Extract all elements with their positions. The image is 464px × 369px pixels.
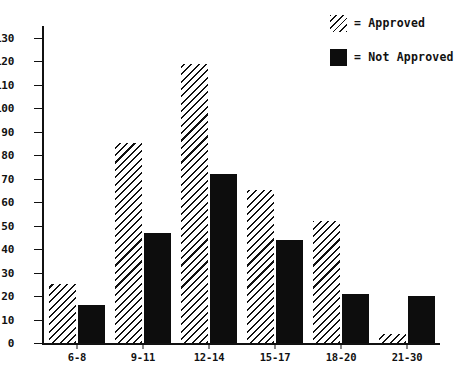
y-axis-tick-label: 0 xyxy=(0,337,14,350)
bar-not-approved xyxy=(276,240,303,343)
y-axis-tick xyxy=(34,61,42,62)
bar-group: 18-20 xyxy=(308,26,374,343)
bar-not-approved xyxy=(78,305,105,343)
bar-group: 9-11 xyxy=(110,26,176,343)
x-axis-tick xyxy=(407,343,408,349)
y-axis-tick-label: 30 xyxy=(0,266,14,279)
y-axis-tick xyxy=(34,202,42,203)
x-axis-tick-label: 15-17 xyxy=(260,351,291,363)
y-axis-tick xyxy=(34,38,42,39)
y-axis-tick xyxy=(34,320,42,321)
x-axis-tick xyxy=(77,343,78,349)
y-axis-tick-label: 100 xyxy=(0,102,14,115)
y-axis-tick xyxy=(34,179,42,180)
bar-approved xyxy=(181,64,208,343)
plot-area: 0102030405060708090100110120130 6-89-111… xyxy=(42,26,440,345)
bar-approved xyxy=(115,143,142,343)
y-axis-tick-label: 90 xyxy=(0,125,14,138)
bar-not-approved xyxy=(144,233,171,343)
x-axis-tick xyxy=(209,343,210,349)
y-axis-tick-label: 70 xyxy=(0,172,14,185)
bar-not-approved xyxy=(342,294,369,343)
bar-approved xyxy=(49,284,76,343)
bar-group: 21-30 xyxy=(374,26,440,343)
x-axis-tick-label: 21-30 xyxy=(392,351,423,363)
y-axis-tick-label: 50 xyxy=(0,219,14,232)
x-axis-tick-label: 6-8 xyxy=(68,351,86,363)
y-axis-tick xyxy=(34,155,42,156)
x-axis-tick-label: 9-11 xyxy=(131,351,156,363)
y-axis-tick xyxy=(34,132,42,133)
bar-groups: 6-89-1112-1415-1718-2021-30 xyxy=(44,26,440,343)
y-axis-tick xyxy=(34,249,42,250)
y-axis-tick xyxy=(34,108,42,109)
y-axis-tick xyxy=(34,226,42,227)
y-axis-tick xyxy=(34,85,42,86)
y-axis-tick-label: 110 xyxy=(0,78,14,91)
y-axis-tick xyxy=(34,296,42,297)
y-axis-tick-label: 60 xyxy=(0,196,14,209)
y-axis-tick-label: 130 xyxy=(0,31,14,44)
bar-approved xyxy=(379,334,406,343)
bar-not-approved xyxy=(210,174,237,343)
y-axis-tick-label: 10 xyxy=(0,313,14,326)
y-axis-tick-label: 120 xyxy=(0,55,14,68)
bar-chart: = Approved = Not Approved 01020304050607… xyxy=(0,0,464,369)
bar-approved xyxy=(313,221,340,343)
bar-not-approved xyxy=(408,296,435,343)
x-axis-tick-label: 18-20 xyxy=(326,351,357,363)
bar-group: 12-14 xyxy=(176,26,242,343)
y-axis-tick xyxy=(34,273,42,274)
y-axis-tick xyxy=(34,343,42,344)
bar-group: 6-8 xyxy=(44,26,110,343)
x-axis-line xyxy=(42,343,440,345)
bar-approved xyxy=(247,190,274,343)
x-axis-tick xyxy=(341,343,342,349)
x-axis-tick-label: 12-14 xyxy=(194,351,225,363)
x-axis-tick xyxy=(275,343,276,349)
y-axis-tick-label: 20 xyxy=(0,290,14,303)
bar-group: 15-17 xyxy=(242,26,308,343)
y-axis-tick-label: 80 xyxy=(0,149,14,162)
y-axis-tick-label: 40 xyxy=(0,243,14,256)
x-axis-tick xyxy=(143,343,144,349)
